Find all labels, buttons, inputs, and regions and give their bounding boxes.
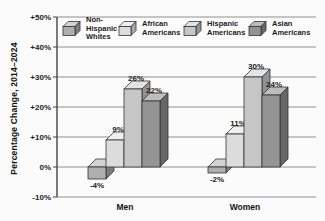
legend-swatch-cube [248,20,268,37]
legend-label: AfricanAmericans [142,20,180,37]
y-tick-label: +20% [30,103,51,112]
y-tick-label: +50% [30,13,51,22]
bar-front-face [244,77,262,167]
bar-side-face [280,87,288,167]
category-label: Women [230,202,261,212]
legend-swatch-cube [183,20,203,37]
bar-front-face [208,167,226,173]
legend-swatch-cube [62,20,82,37]
bar-value-label: -2% [210,175,224,184]
bar-value-label: 24% [266,80,282,89]
bar-value-label: 26% [128,74,144,83]
category-label: Men [117,202,134,212]
bar-value-label: 11% [230,119,246,128]
bar-value-label: 22% [146,86,162,95]
bar-front-face [262,95,280,167]
legend-item: AfricanAmericans [118,20,180,37]
y-tick-label: 0% [39,163,51,172]
bar-value-label: -4% [90,181,104,190]
bar-side-face [160,93,168,167]
bar-value-label: 30% [248,62,264,71]
legend-label: HispanicAmericans [207,20,245,37]
bar-front-face [142,101,160,167]
bar-front-face [124,89,142,167]
bar-chart-figure: Percentage Change, 2014–2024 +50%+40%+30… [0,0,325,221]
y-tick-label: -10% [32,193,51,202]
bar-front-face [106,140,124,167]
legend-item: Non-HispanicWhites [62,16,117,42]
legend-swatch-cube [118,20,138,37]
legend-item: AsianAmericans [248,20,310,37]
bar-value-label: 9% [112,125,124,134]
legend-label: AsianAmericans [272,20,310,37]
y-tick-label: +30% [30,73,51,82]
legend-item: HispanicAmericans [183,20,245,37]
bar-front-face [88,167,106,179]
y-tick-label: +40% [30,43,51,52]
bar-front-face [226,134,244,167]
y-tick-label: +10% [30,133,51,142]
legend-label: Non-HispanicWhites [86,16,117,42]
